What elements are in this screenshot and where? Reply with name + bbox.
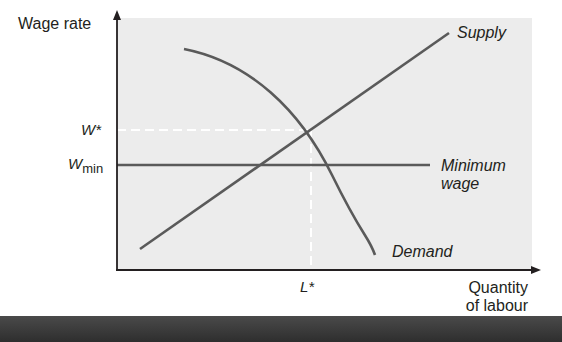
w-min-subscript: min — [82, 161, 103, 176]
y-axis-label: Wage rate — [18, 16, 91, 32]
demand-label: Demand — [392, 244, 452, 260]
x-axis-arrow-icon — [531, 266, 541, 274]
plot-panel — [117, 18, 532, 270]
minimum-wage-label-line2: wage — [441, 176, 479, 192]
w-min-label: Wmin — [68, 156, 103, 171]
x-axis-label-line1: Quantity — [458, 280, 528, 296]
bottom-divider-bar — [0, 316, 562, 342]
w-star-suffix: * — [95, 121, 101, 138]
l-star-label: L* — [300, 279, 314, 294]
minimum-wage-label-line1: Minimum — [441, 158, 506, 174]
supply-label: Supply — [457, 25, 506, 41]
w-star-label: W* — [81, 122, 101, 137]
y-axis-arrow-icon — [113, 10, 121, 20]
x-axis-label-line2: of labour — [440, 298, 528, 314]
labour-market-diagram: Wage rate Quantity of labour W* Wmin L* … — [0, 0, 562, 342]
w-star-base: W — [81, 121, 95, 138]
w-min-base: W — [68, 155, 82, 172]
